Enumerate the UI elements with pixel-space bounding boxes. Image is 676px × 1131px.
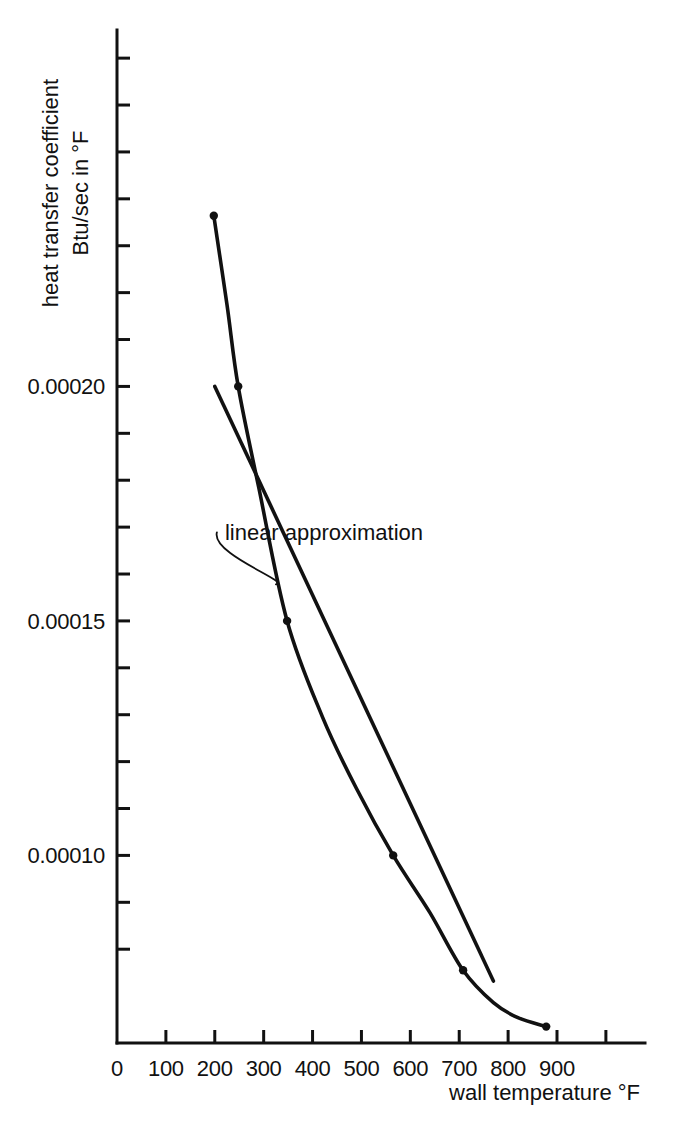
x-tick-label: 600: [392, 1056, 428, 1081]
x-axis-title: wall temperature °F: [448, 1080, 640, 1105]
series-line-0: [214, 216, 546, 1027]
x-tick-label: 900: [539, 1056, 575, 1081]
y-axis-title: heat transfer coefficient Btu/sec in °F: [18, 28, 114, 358]
series-data-point: [542, 1022, 550, 1030]
x-tick-label: 400: [295, 1056, 331, 1081]
series-data-point: [283, 617, 291, 625]
x-tick-label: 100: [148, 1056, 184, 1081]
x-tick-label: 200: [197, 1056, 233, 1081]
x-tick-label: 800: [490, 1056, 526, 1081]
series-data-point: [389, 851, 397, 859]
x-tick-label: 500: [344, 1056, 380, 1081]
series-data-point: [210, 212, 218, 220]
series-line-1: [215, 386, 494, 981]
y-axis-tick-labels: 0.000100.000150.00020: [28, 374, 105, 868]
y-tick-label: 0.00010: [28, 843, 105, 868]
x-tick-label: 700: [441, 1056, 477, 1081]
y-axis-ticks: [117, 58, 130, 949]
x-tick-label: 300: [246, 1056, 282, 1081]
y-axis-title-line1: heat transfer coefficient: [36, 79, 66, 307]
y-tick-label: 0.00015: [28, 609, 105, 634]
chart-figure: 0.000100.000150.00020 010020030040050060…: [0, 0, 676, 1131]
series-data-point: [459, 966, 467, 974]
series-data-point: [234, 382, 242, 390]
annotation-label-linear-approximation: linear approximation: [225, 520, 423, 545]
x-axis-tick-labels: 0100200300400500600700800900: [111, 1056, 575, 1081]
data-series-group: [210, 212, 551, 1031]
y-tick-label: 0.00020: [28, 374, 105, 399]
x-axis-ticks: [166, 1030, 606, 1043]
y-axis-title-line2: Btu/sec in °F: [66, 79, 96, 307]
x-tick-label: 0: [111, 1056, 123, 1081]
